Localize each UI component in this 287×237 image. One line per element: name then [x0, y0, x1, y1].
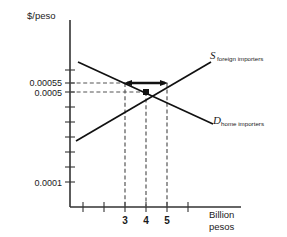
demand-curve-label-main: D: [212, 114, 221, 126]
chart-canvas: 0.00055 0.0005 0.0001 3 4 5 $/peso Billi…: [0, 0, 287, 237]
supply-curve-label: S foreign importers: [210, 49, 263, 62]
demand-curve-label: D home importers: [212, 114, 264, 127]
x-tick-label-1: 4: [143, 215, 149, 226]
supply-curve-label-sub: foreign importers: [217, 55, 263, 62]
y-tick-label-2: 0.0001: [34, 178, 62, 188]
guide-lines-group: [70, 83, 167, 207]
equilibrium-point-marker: [143, 89, 149, 95]
supply-curve-label-main: S: [210, 49, 216, 61]
demand-curve-label-sub: home importers: [221, 120, 264, 127]
quantity-gap-arrow: [124, 80, 168, 86]
y-tick-label-1: 0.0005: [34, 88, 62, 98]
x-tick-label-0: 3: [122, 215, 128, 226]
supply-curve: [76, 62, 211, 141]
x-axis-title-line2: pesos: [209, 221, 235, 232]
x-tick-label-2: 5: [164, 215, 170, 226]
y-axis-title: $/peso: [27, 10, 56, 21]
y-tick-label-0: 0.00055: [29, 78, 62, 88]
supply-demand-chart: 0.00055 0.0005 0.0001 3 4 5 $/peso Billi…: [0, 0, 287, 237]
x-axis-title-line1: Billion: [209, 209, 234, 220]
